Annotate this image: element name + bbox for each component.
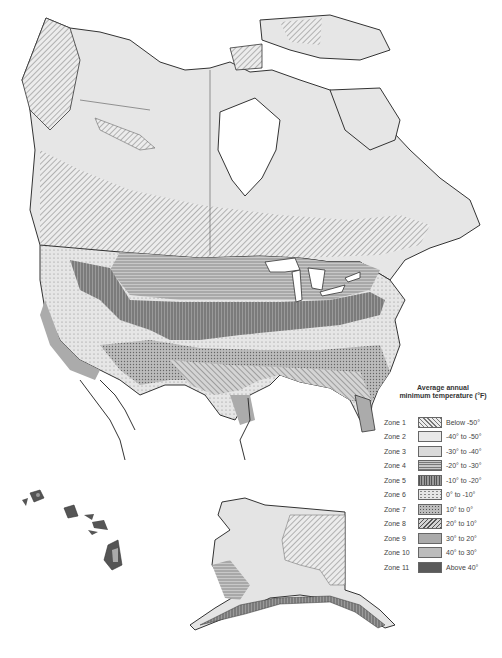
zone-range: Above 40° [446, 564, 478, 571]
hawaii-region [22, 490, 122, 570]
zone-range: 40° to 30° [446, 549, 477, 556]
zone-label: Zone 1 [384, 419, 416, 426]
legend: Average annual minimum temperature (°F) … [384, 384, 502, 575]
usa-region [40, 245, 405, 460]
zone-label: Zone 11 [384, 564, 416, 571]
zone-6-swatch-icon [418, 489, 442, 500]
legend-rows: Zone 1Below -50° Zone 2-40° to -50° Zone… [384, 415, 502, 575]
legend-row-zone-6: Zone 60° to -10° [384, 488, 502, 503]
zone-4-swatch-icon [418, 460, 442, 471]
zone-1-swatch-icon [418, 417, 442, 428]
zone-9-swatch-icon [418, 533, 442, 544]
zone-10-swatch-icon [418, 547, 442, 558]
zone-range: 0° to -10° [446, 491, 475, 498]
zone-label: Zone 9 [384, 535, 416, 542]
zone-11-swatch-icon [418, 562, 442, 573]
zone-5-swatch-icon [418, 475, 442, 486]
legend-row-zone-1: Zone 1Below -50° [384, 415, 502, 430]
legend-row-zone-3: Zone 3-30° to -40° [384, 444, 502, 459]
zone-label: Zone 8 [384, 520, 416, 527]
legend-row-zone-4: Zone 4-20° to -30° [384, 459, 502, 474]
legend-row-zone-10: Zone 1040° to 30° [384, 546, 502, 561]
legend-title-line1: Average annual [384, 384, 502, 392]
alaska-region [190, 498, 395, 630]
legend-row-zone-7: Zone 710° to 0° [384, 502, 502, 517]
zone-range: -40° to -50° [446, 433, 482, 440]
zone-7-swatch-icon [418, 504, 442, 515]
zone-label: Zone 6 [384, 491, 416, 498]
zone-label: Zone 5 [384, 477, 416, 484]
legend-row-zone-9: Zone 930° to 20° [384, 531, 502, 546]
legend-title-line2: minimum temperature (°F) [384, 392, 502, 400]
zone-3-swatch-icon [418, 446, 442, 457]
zone-range: 10° to 0° [446, 506, 473, 513]
canada-region [22, 15, 480, 280]
legend-row-zone-8: Zone 820° to 10° [384, 517, 502, 532]
zone-label: Zone 10 [384, 549, 416, 556]
zone-range: -20° to -30° [446, 462, 482, 469]
legend-row-zone-5: Zone 5-10° to -20° [384, 473, 502, 488]
legend-row-zone-11: Zone 11Above 40° [384, 560, 502, 575]
zone-8-swatch-icon [418, 518, 442, 529]
zone-range: -10° to -20° [446, 477, 482, 484]
zone-label: Zone 3 [384, 448, 416, 455]
zone-label: Zone 2 [384, 433, 416, 440]
zone-range: -30° to -40° [446, 448, 482, 455]
zone-range: 20° to 10° [446, 520, 477, 527]
zone-range: Below -50° [446, 419, 480, 426]
zone-range: 30° to 20° [446, 535, 477, 542]
zone-label: Zone 4 [384, 462, 416, 469]
legend-row-zone-2: Zone 2-40° to -50° [384, 430, 502, 445]
zone-label: Zone 7 [384, 506, 416, 513]
zone-2-swatch-icon [418, 431, 442, 442]
